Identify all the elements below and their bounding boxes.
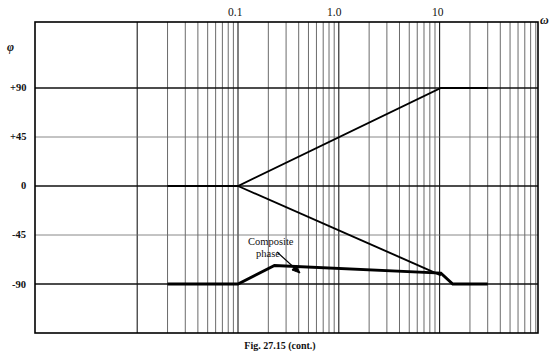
x-tick-label-0: 0.1	[228, 6, 242, 18]
annotation-composite-phase-line1: Composite	[248, 236, 294, 248]
y-tick-label-1: +45	[10, 131, 26, 142]
annotation-composite-phase-line2: phase	[256, 248, 280, 260]
plot-frame	[35, 22, 538, 333]
y-tick-label-4: -90	[12, 279, 26, 290]
figure-caption: Fig. 27.15 (cont.)	[210, 340, 350, 351]
y-axis-label: φ	[7, 40, 14, 55]
y-tick-label-3: -45	[12, 229, 26, 240]
x-tick-label-2: 10	[432, 6, 444, 18]
x-axis-label: ω	[540, 13, 549, 28]
y-tick-label-0: +90	[10, 82, 26, 93]
y-tick-label-2: 0	[21, 180, 26, 191]
x-tick-label-1: 1.0	[327, 6, 341, 18]
